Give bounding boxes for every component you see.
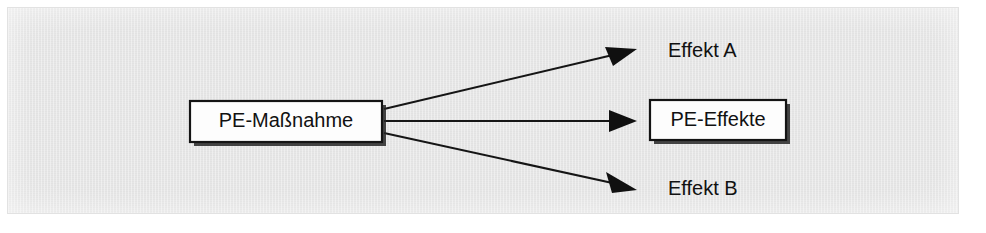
arrow-to-effekt-a-line: [384, 54, 617, 109]
figure-root: PE-Maßnahme Effekt A PE-Effekte Effekt B: [0, 0, 986, 233]
arrow-to-pe-effekte-head: [609, 110, 637, 132]
node-pe-massnahme-label: PE-Maßnahme: [219, 109, 354, 131]
diagram-canvas: PE-Maßnahme Effekt A PE-Effekte Effekt B: [0, 0, 986, 233]
node-effekt-b: Effekt B: [668, 177, 738, 199]
arrow-to-pe-effekte: [384, 110, 637, 132]
node-pe-effekte-label: PE-Effekte: [670, 108, 765, 130]
arrow-to-effekt-a-head: [605, 47, 637, 66]
arrow-to-effekt-b: [384, 133, 637, 193]
arrow-to-effekt-b-line: [384, 133, 617, 184]
node-effekt-b-label: Effekt B: [668, 177, 738, 199]
node-pe-effekte[interactable]: PE-Effekte: [650, 100, 790, 144]
node-effekt-a-label: Effekt A: [668, 39, 737, 61]
arrow-to-effekt-b-head: [606, 172, 637, 193]
connector-group: [384, 47, 637, 193]
node-pe-massnahme[interactable]: PE-Maßnahme: [190, 101, 386, 146]
node-effekt-a: Effekt A: [668, 39, 737, 61]
arrow-to-effekt-a: [384, 47, 637, 109]
